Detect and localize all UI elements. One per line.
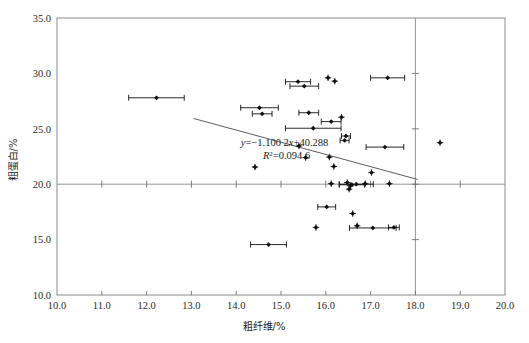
chart-background bbox=[0, 0, 529, 343]
x-tick-label: 19.0 bbox=[451, 300, 469, 311]
y-tick-label: 20.0 bbox=[33, 179, 51, 190]
x-tick-label: 10.0 bbox=[48, 300, 66, 311]
x-tick-label: 15.0 bbox=[272, 300, 290, 311]
y-tick-label: 15.0 bbox=[33, 234, 51, 245]
x-tick-label: 11.0 bbox=[93, 300, 111, 311]
scatter-chart: 10.011.012.013.014.015.016.017.018.019.0… bbox=[0, 0, 529, 343]
r-squared-text: R2=0.094 6 bbox=[262, 150, 310, 161]
y-tick-label: 10.0 bbox=[33, 290, 51, 301]
y-tick-label: 30.0 bbox=[33, 68, 51, 79]
x-tick-label: 20.0 bbox=[496, 300, 514, 311]
x-axis-title: 粗纤维/% bbox=[243, 320, 286, 332]
chart-canvas: 10.011.012.013.014.015.016.017.018.019.0… bbox=[0, 0, 529, 343]
regression-equation-text: y=−1.100 2x+40.288 bbox=[240, 137, 328, 148]
x-tick-label: 13.0 bbox=[182, 300, 200, 311]
y-axis-title: 粗蛋白/% bbox=[7, 139, 19, 182]
y-tick-label: 25.0 bbox=[33, 124, 51, 135]
x-tick-label: 14.0 bbox=[227, 300, 245, 311]
x-tick-label: 17.0 bbox=[361, 300, 379, 311]
x-tick-label: 12.0 bbox=[137, 300, 155, 311]
x-tick-label: 16.0 bbox=[317, 300, 335, 311]
y-tick-label: 35.0 bbox=[33, 13, 51, 24]
x-tick-label: 18.0 bbox=[406, 300, 424, 311]
